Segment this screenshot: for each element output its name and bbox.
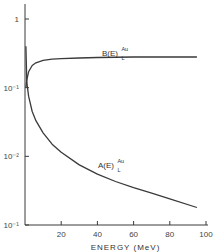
chart: 20406080100110⁻¹10⁻²10⁻¹ ENERGY (MeV)B(E… — [0, 0, 219, 252]
y-tick-label: 10⁻¹ — [3, 221, 19, 230]
x-tick-label: 60 — [129, 230, 138, 239]
y-tick-label: 10⁻¹ — [3, 84, 19, 93]
axes: 20406080100110⁻¹10⁻²10⁻¹ — [3, 4, 213, 239]
x-tick-label: 80 — [165, 230, 174, 239]
x-tick-label: 40 — [93, 230, 102, 239]
series-a-line — [26, 46, 197, 207]
curves — [26, 46, 197, 207]
series-a-label: A(E) — [98, 161, 114, 170]
series-b-label-sup: Au — [121, 46, 128, 52]
y-tick-label: 10⁻² — [3, 152, 19, 161]
series-b-label-sub: L — [121, 55, 124, 61]
labels: ENERGY (MeV)B(E)AuLA(E)AuL — [91, 46, 161, 252]
series-a-label-sub: L — [117, 167, 120, 173]
x-axis-title: ENERGY (MeV) — [91, 243, 161, 252]
x-tick-label: 100 — [199, 230, 213, 239]
series-b-label: B(E) — [102, 49, 118, 58]
series-a-label-sup: Au — [117, 158, 124, 164]
x-tick-label: 20 — [57, 230, 66, 239]
y-tick-label: 1 — [15, 15, 20, 24]
series-b-line — [26, 57, 197, 88]
